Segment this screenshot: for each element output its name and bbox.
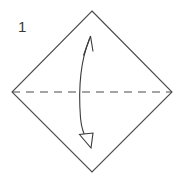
- step-number-label: 1: [18, 18, 26, 35]
- origami-step-figure: 1: [0, 0, 184, 177]
- origami-diagram-canvas: 1: [0, 0, 184, 177]
- diagram-background: [0, 0, 184, 177]
